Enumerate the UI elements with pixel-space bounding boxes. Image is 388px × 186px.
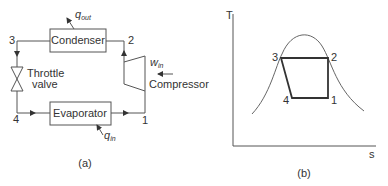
- compressor-label: Compressor: [149, 78, 209, 90]
- state-2-label: 2: [128, 34, 134, 46]
- state-4-label: 4: [13, 113, 19, 125]
- q-in-arrow: [97, 125, 103, 135]
- throttle-label-2: valve: [32, 78, 58, 90]
- pipe-throttle-to-4: [17, 91, 30, 113]
- compressor-icon: [124, 56, 145, 91]
- saturation-dome-curve: [252, 35, 364, 114]
- ts-state-3-label: 3: [272, 51, 278, 63]
- evaporator-label: Evaporator: [53, 107, 107, 119]
- cycle-path: [281, 58, 328, 98]
- pipe-2-to-condenser: [106, 41, 124, 52]
- t-axis-label: T: [226, 9, 233, 21]
- w-in-label: win: [150, 56, 164, 69]
- ts-state-2-label: 2: [331, 51, 337, 63]
- refrigeration-cycle-figure: Condenser qout Throttle valve Evaporator…: [0, 0, 388, 186]
- throttle-valve-icon: [11, 67, 23, 91]
- schematic-diagram: Condenser qout Throttle valve Evaporator…: [9, 8, 209, 169]
- q-out-arrow: [67, 18, 74, 29]
- q-out-label: qout: [75, 8, 92, 21]
- t-s-diagram: T s 3 2 4 1 (b): [226, 9, 376, 179]
- pipe-3-left: [17, 41, 50, 52]
- caption-b: (b): [297, 167, 310, 179]
- state-3-label: 3: [9, 34, 15, 46]
- ts-state-4-label: 4: [283, 94, 289, 106]
- q-in-label: qin: [104, 129, 116, 142]
- condenser-label: Condenser: [51, 34, 105, 46]
- caption-a: (a): [78, 157, 91, 169]
- ts-state-1-label: 1: [331, 94, 337, 106]
- pipe-1-to-compressor: [128, 91, 145, 113]
- s-axis-label: s: [369, 148, 375, 160]
- state-1-label: 1: [142, 114, 148, 126]
